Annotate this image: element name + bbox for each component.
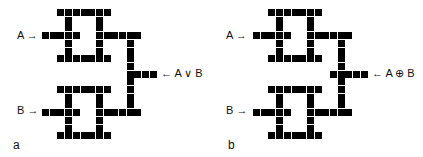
- live-cell: [127, 78, 134, 85]
- live-cell: [276, 109, 283, 116]
- live-cell: [307, 109, 314, 116]
- live-cell: [96, 17, 103, 24]
- live-cell: [50, 32, 57, 39]
- live-cell: [307, 9, 314, 16]
- live-cell: [81, 86, 88, 93]
- live-cell: [127, 71, 134, 78]
- live-cell: [104, 9, 111, 16]
- live-cell: [338, 71, 345, 78]
- live-cell: [338, 32, 345, 39]
- live-cell: [268, 86, 275, 93]
- live-cell: [307, 132, 314, 139]
- live-cell: [127, 86, 134, 93]
- input-b-label: B →: [226, 104, 247, 116]
- live-cell: [307, 55, 314, 62]
- live-cell: [65, 9, 72, 16]
- live-cell: [276, 55, 283, 62]
- live-cell: [307, 24, 314, 31]
- live-cell: [322, 32, 329, 39]
- live-cell: [307, 94, 314, 101]
- live-cell: [127, 63, 134, 70]
- live-cell: [284, 109, 291, 116]
- live-cell: [292, 132, 299, 139]
- live-cell: [338, 55, 345, 62]
- live-cell: [338, 48, 345, 55]
- live-cell: [57, 86, 64, 93]
- live-cell: [104, 109, 111, 116]
- live-cell: [276, 101, 283, 108]
- live-cell: [353, 71, 360, 78]
- live-cell: [276, 86, 283, 93]
- live-cell: [276, 125, 283, 132]
- live-cell: [57, 9, 64, 16]
- live-cell: [284, 32, 291, 39]
- live-cell: [345, 109, 352, 116]
- live-cell: [268, 132, 275, 139]
- live-cell: [73, 109, 80, 116]
- output-label: ← A ⊕ B: [372, 67, 415, 79]
- input-a-label: A →: [17, 29, 38, 41]
- live-cell: [276, 9, 283, 16]
- live-cell: [307, 117, 314, 124]
- live-cell: [88, 86, 95, 93]
- live-cell: [276, 117, 283, 124]
- live-cell: [276, 32, 283, 39]
- live-cell: [268, 32, 275, 39]
- live-cell: [73, 32, 80, 39]
- live-cell: [96, 55, 103, 62]
- live-cell: [104, 32, 111, 39]
- live-cell: [57, 132, 64, 139]
- live-cell: [338, 101, 345, 108]
- live-cell: [150, 71, 157, 78]
- live-cell: [261, 32, 268, 39]
- live-cell: [96, 48, 103, 55]
- live-cell: [42, 109, 49, 116]
- live-cell: [142, 71, 149, 78]
- live-cell: [73, 132, 80, 139]
- live-cell: [96, 24, 103, 31]
- live-cell: [88, 132, 95, 139]
- input-b-label: B →: [17, 104, 38, 116]
- live-cell: [65, 86, 72, 93]
- live-cell: [307, 17, 314, 24]
- live-cell: [73, 9, 80, 16]
- live-cell: [65, 24, 72, 31]
- live-cell: [127, 55, 134, 62]
- live-cell: [119, 32, 126, 39]
- live-cell: [57, 109, 64, 116]
- live-cell: [284, 55, 291, 62]
- output-label: ← A ∨ B: [161, 67, 203, 79]
- live-cell: [127, 101, 134, 108]
- panel-label: a: [13, 138, 20, 152]
- panel-label: b: [228, 138, 235, 152]
- live-cell: [315, 55, 322, 62]
- live-cell: [330, 109, 337, 116]
- live-cell: [96, 125, 103, 132]
- live-cell: [292, 9, 299, 16]
- live-cell: [104, 132, 111, 139]
- live-cell: [338, 109, 345, 116]
- live-cell: [57, 55, 64, 62]
- live-cell: [96, 132, 103, 139]
- live-cell: [50, 109, 57, 116]
- live-cell: [361, 71, 368, 78]
- live-cell: [268, 55, 275, 62]
- live-cell: [96, 101, 103, 108]
- live-cell: [96, 32, 103, 39]
- live-cell: [276, 94, 283, 101]
- live-cell: [338, 78, 345, 85]
- live-cell: [315, 109, 322, 116]
- live-cell: [338, 40, 345, 47]
- live-cell: [268, 109, 275, 116]
- live-cell: [96, 9, 103, 16]
- live-cell: [284, 86, 291, 93]
- live-cell: [307, 86, 314, 93]
- live-cell: [127, 32, 134, 39]
- live-cell: [111, 32, 118, 39]
- live-cell: [330, 32, 337, 39]
- input-a-label: A →: [226, 29, 247, 41]
- live-cell: [81, 55, 88, 62]
- live-cell: [338, 94, 345, 101]
- live-cell: [119, 109, 126, 116]
- live-cell: [65, 125, 72, 132]
